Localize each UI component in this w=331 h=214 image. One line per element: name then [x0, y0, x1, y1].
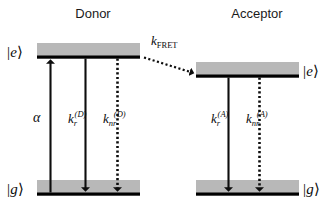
level-acceptor-ground — [196, 180, 299, 196]
rate-label-donor-nonradiative: knr(D) — [103, 112, 128, 125]
rate-symbol: k — [211, 111, 217, 126]
ket-symbol-g: g — [10, 181, 18, 197]
rate-subscript: nr — [109, 118, 117, 128]
ket-angle-right: ⟩ — [313, 63, 319, 79]
fret-energy-level-diagram: Donor Acceptor |e⟩ |g⟩ |e⟩ |g⟩ α kr(D) k… — [0, 0, 331, 214]
ket-symbol-e: e — [306, 63, 313, 79]
rate-label-acceptor-nonradiative: knr(A) — [246, 112, 270, 125]
level-acceptor-excited — [196, 62, 299, 78]
column-title-donor: Donor — [58, 6, 128, 21]
ket-angle-right: ⟩ — [18, 181, 24, 197]
rate-subscript: r — [217, 118, 220, 128]
rate-superscript: (A) — [257, 109, 268, 119]
column-title-acceptor: Acceptor — [216, 6, 298, 21]
rate-label-absorption: α — [33, 110, 40, 126]
state-label-acceptor-ground: |g⟩ — [303, 180, 320, 198]
rate-label-acceptor-radiative: kr(A) — [211, 112, 231, 125]
state-label-acceptor-excited: |e⟩ — [303, 62, 319, 80]
rate-subscript: nr — [252, 118, 260, 128]
ket-symbol-e: e — [10, 44, 17, 60]
rate-symbol: k — [68, 111, 74, 126]
rate-symbol: k — [246, 111, 252, 126]
rate-superscript: (D) — [75, 109, 87, 119]
rate-label-fret: kFRET — [151, 34, 178, 47]
rate-label-donor-radiative: kr(D) — [68, 112, 89, 125]
ket-symbol-g: g — [306, 181, 314, 197]
ket-angle-right: ⟩ — [17, 44, 23, 60]
ket-angle-right: ⟩ — [314, 181, 320, 197]
state-label-donor-excited: |e⟩ — [7, 43, 23, 61]
rate-superscript: (D) — [114, 109, 126, 119]
arrow-fret-transfer — [144, 58, 192, 73]
level-donor-excited — [37, 43, 140, 59]
diagram-canvas — [0, 0, 331, 214]
rate-subscript: FRET — [157, 40, 178, 50]
rate-superscript: (A) — [218, 109, 229, 119]
level-donor-ground — [37, 180, 140, 196]
rate-symbol: k — [151, 33, 157, 48]
rate-subscript: r — [74, 118, 77, 128]
rate-symbol: k — [103, 111, 109, 126]
state-label-donor-ground: |g⟩ — [7, 180, 24, 198]
